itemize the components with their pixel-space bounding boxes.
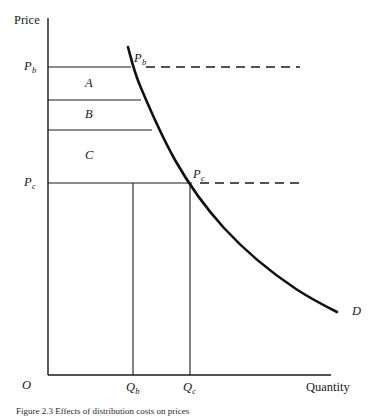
diagram-canvas: [0, 0, 385, 416]
y-tick-label-pb: Pb: [24, 60, 36, 73]
x-axis-title: Quantity: [306, 381, 350, 394]
region-label-a: A: [85, 77, 93, 90]
demand-curve-label: D: [352, 305, 361, 318]
x-tick-qc-base: Q: [183, 380, 192, 394]
curve-point-label-pc: Pc: [193, 168, 204, 181]
region-label-c: C: [85, 149, 93, 162]
curve-point-pc-sub: c: [201, 173, 205, 183]
origin-label: O: [22, 379, 31, 392]
y-tick-pc-sub: c: [32, 181, 36, 191]
y-axis-title: Price: [14, 14, 40, 27]
curve-point-pc-base: P: [193, 167, 201, 181]
x-tick-qb-sub: b: [135, 386, 139, 396]
economics-demand-figure: Price Quantity O Pb Pc Pb Pc Qb Qc D A B…: [0, 0, 385, 416]
y-tick-pb-sub: b: [32, 65, 36, 75]
x-tick-qc-sub: c: [192, 386, 196, 396]
y-tick-pb-base: P: [24, 59, 32, 73]
x-tick-qb-base: Q: [126, 380, 135, 394]
x-tick-label-qb: Qb: [126, 381, 139, 394]
y-tick-label-pc: Pc: [24, 176, 35, 189]
curve-point-label-pb: Pb: [134, 52, 146, 65]
x-tick-label-qc: Qc: [183, 381, 196, 394]
demand-curve: [128, 47, 337, 312]
y-tick-pc-base: P: [24, 175, 32, 189]
curve-point-pb-sub: b: [142, 57, 146, 67]
figure-caption: Figure 2.3 Effects of distribution costs…: [16, 406, 316, 416]
region-label-b: B: [85, 108, 93, 121]
curve-point-pb-base: P: [134, 51, 142, 65]
